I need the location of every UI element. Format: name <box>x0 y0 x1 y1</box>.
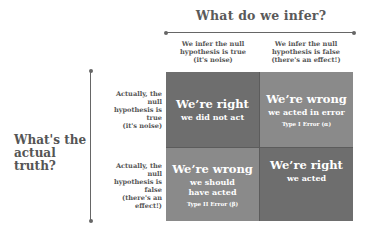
column-header-1: We infer the nullhypothesis is true(it's… <box>166 40 260 64</box>
top-axis-dot-left <box>164 31 168 35</box>
row-header-1: Actually, the nullhypothesis is true(it'… <box>100 90 162 130</box>
top-axis-line <box>166 32 354 33</box>
side-axis-dot-top <box>89 69 93 73</box>
cell-true-negative: We’re right we did not act <box>166 72 259 147</box>
side-axis-dot-bottom <box>89 219 93 223</box>
type-1-error-label: Type I Error (α) <box>282 120 331 128</box>
type-2-error-label: Type II Error (β) <box>187 200 238 208</box>
cell-false-negative: We’re wrong we should have acted Type II… <box>166 147 259 221</box>
top-axis-dot-right <box>352 31 356 35</box>
top-axis-title: What do we infer? <box>150 8 372 23</box>
cell-true-positive: We’re right we acted <box>259 147 353 221</box>
cell-false-positive: We’re wrong we acted in error Type I Err… <box>259 72 353 147</box>
side-axis-line <box>90 71 91 221</box>
row-header-2: Actually, the nullhypothesis is false(th… <box>100 162 162 210</box>
column-header-2: We infer the nullhypothesis is false(the… <box>259 40 353 64</box>
side-axis-title: What's the actual truth? <box>14 134 90 173</box>
